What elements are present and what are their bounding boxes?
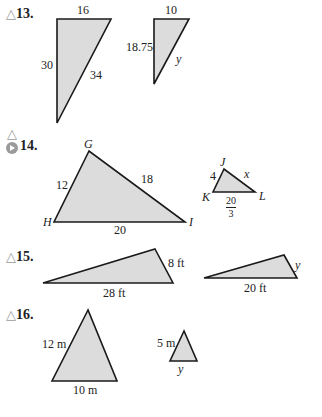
vertex-G: G bbox=[84, 137, 93, 152]
label-JL: x bbox=[244, 167, 249, 182]
vertex-K: K bbox=[202, 190, 210, 205]
label-HI: 20 bbox=[114, 223, 126, 238]
problem-13-header: △13. bbox=[6, 4, 34, 22]
label-15a-base: 28 ft bbox=[103, 286, 125, 301]
problem-number: 15. bbox=[16, 249, 34, 264]
label-13b-top: 10 bbox=[165, 3, 177, 18]
label-15a-right: 8 ft bbox=[168, 256, 184, 271]
label-13b-hyp: y bbox=[176, 52, 181, 67]
vertex-L: L bbox=[259, 189, 266, 204]
label-13a-top: 16 bbox=[77, 3, 89, 18]
label-13b-left: 18.75 bbox=[126, 40, 153, 55]
fraction-denominator: 3 bbox=[229, 209, 234, 219]
triangle-icon: △ bbox=[7, 126, 17, 142]
triangle-13a bbox=[57, 19, 111, 123]
problem-number: 14. bbox=[20, 138, 38, 154]
vertex-H: H bbox=[43, 215, 52, 230]
triangle-icon: △ bbox=[6, 249, 16, 264]
problem-number: 13. bbox=[16, 6, 34, 21]
problem-number: 16. bbox=[16, 307, 34, 322]
label-15b-right: y bbox=[295, 258, 300, 273]
label-16b-base: y bbox=[178, 362, 183, 377]
triangle-15a bbox=[43, 249, 173, 283]
label-16a-base: 10 m bbox=[73, 383, 97, 398]
vertex-I: I bbox=[189, 215, 193, 230]
vertex-J: J bbox=[220, 155, 225, 170]
triangle-13b bbox=[154, 19, 189, 84]
label-JK: 4 bbox=[210, 169, 216, 184]
triangle-icon: △ bbox=[6, 307, 16, 322]
play-icon[interactable] bbox=[6, 142, 18, 154]
triangle-icon: △ bbox=[6, 6, 16, 21]
label-16a-left: 12 m bbox=[42, 337, 66, 352]
problem-15-header: △15. bbox=[6, 247, 34, 265]
label-15b-base: 20 ft bbox=[244, 281, 266, 296]
triangle-14-GHI bbox=[54, 151, 185, 222]
fraction-numerator: 20 bbox=[226, 196, 236, 206]
label-KL-fraction: 20 3 bbox=[226, 196, 236, 219]
label-16b-left: 5 m bbox=[157, 336, 175, 351]
label-GI: 18 bbox=[141, 172, 153, 187]
label-13a-left: 30 bbox=[41, 58, 53, 73]
label-13a-hyp: 34 bbox=[90, 68, 102, 83]
problem-16-header: △16. bbox=[6, 305, 34, 323]
label-GH: 12 bbox=[56, 178, 68, 193]
triangle-15b bbox=[204, 255, 297, 278]
